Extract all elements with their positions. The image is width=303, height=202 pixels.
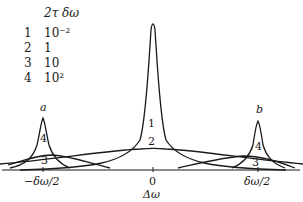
- tick-label-zero: 0: [149, 175, 156, 188]
- curve-label-1: 1: [148, 117, 155, 130]
- curve-label-3-right: 3: [252, 156, 259, 169]
- curve-label-4-left: 4: [40, 132, 47, 145]
- peak-label-a: a: [40, 101, 47, 114]
- curve-label-3-left: 3: [41, 154, 48, 167]
- tick-label-left: −δω/2: [24, 175, 60, 188]
- x-axis-label: Δω: [142, 188, 160, 201]
- curve-label-2: 2: [148, 135, 155, 148]
- peak-label-b: b: [256, 103, 263, 116]
- spectrum-plot: a b 1 2 3 3 4 4 −δω/2 0 δω/2 Δω: [0, 0, 303, 202]
- tick-label-right: δω/2: [244, 175, 270, 188]
- curve-label-4-right: 4: [255, 140, 262, 153]
